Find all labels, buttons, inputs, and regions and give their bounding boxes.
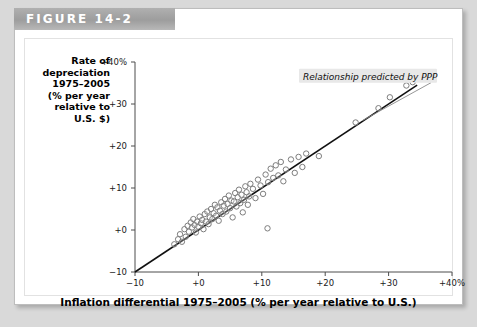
data-point (278, 159, 283, 164)
data-point (265, 226, 270, 231)
ppp-annotation-leader-line (362, 83, 431, 121)
y-tick-label: +20 (109, 141, 127, 151)
data-point (183, 234, 188, 239)
data-point (296, 154, 301, 159)
x-tick-label: +40% (439, 278, 465, 288)
data-point (260, 191, 265, 196)
figure-root: FIGURE 14-2 Rate of depreciation 1975–20… (0, 0, 477, 327)
data-point (353, 120, 358, 125)
data-point (265, 179, 270, 184)
data-point (246, 194, 251, 199)
x-tick-labels: −10+0+10+20+30+40% (126, 278, 465, 288)
data-point (303, 151, 308, 156)
data-point (258, 183, 263, 188)
data-point (240, 210, 245, 215)
data-point (255, 177, 260, 182)
data-point (276, 173, 281, 178)
data-point (236, 187, 241, 192)
y-tick-label: +30 (109, 99, 127, 109)
x-tick-label: −10 (126, 278, 144, 288)
data-point (271, 175, 276, 180)
x-tick-marks (135, 272, 452, 276)
data-point (193, 230, 198, 235)
data-point (213, 213, 218, 218)
data-point (248, 181, 253, 186)
data-point (281, 179, 286, 184)
data-point (250, 186, 255, 191)
data-point (245, 202, 250, 207)
data-point (201, 226, 206, 231)
x-tick-label: +30 (380, 278, 398, 288)
data-point (230, 215, 235, 220)
ppp-annotation-text: Relationship predicted by PPP (303, 72, 438, 82)
data-point (239, 192, 244, 197)
ppp-annotation: Relationship predicted by PPP (299, 69, 438, 121)
x-tick-label: +20 (316, 278, 334, 288)
data-points (172, 79, 416, 247)
data-point (172, 242, 177, 247)
data-point (292, 170, 297, 175)
data-point (316, 153, 321, 158)
y-tick-label: −10 (109, 267, 127, 277)
data-point (226, 193, 231, 198)
data-point (300, 164, 305, 169)
scatter-plot: −10+0+10+20+30+40% −10+0+10+20+30+40% Re… (0, 0, 477, 327)
y-tick-labels: −10+0+10+20+30+40% (101, 57, 127, 277)
x-tick-label: +10 (253, 278, 271, 288)
data-point (243, 184, 248, 189)
data-point (241, 197, 246, 202)
data-point (288, 157, 293, 162)
data-point (273, 163, 278, 168)
x-tick-label: +0 (192, 278, 205, 288)
data-point (387, 95, 392, 100)
y-tick-label: +10 (109, 183, 127, 193)
data-point (376, 106, 381, 111)
y-tick-label: +40% (101, 57, 127, 67)
data-point (404, 83, 409, 88)
data-point (177, 232, 182, 237)
data-point (263, 172, 268, 177)
data-point (206, 221, 211, 226)
data-point (179, 239, 184, 244)
y-tick-marks (131, 62, 135, 272)
data-point (253, 195, 258, 200)
data-point (216, 218, 221, 223)
data-point (268, 166, 273, 171)
y-tick-label: +0 (114, 225, 127, 235)
data-point (227, 205, 232, 210)
data-point (283, 167, 288, 172)
